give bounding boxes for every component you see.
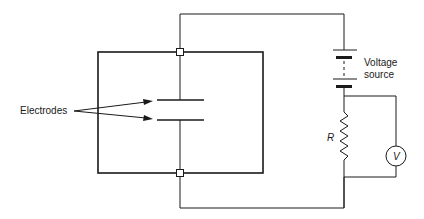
arrow-line-upper [74, 102, 146, 111]
voltmeter-top-wire [344, 96, 396, 146]
circuit-diagram: Electrodes Voltage source R V [0, 0, 424, 219]
arrow-head-lower [143, 115, 153, 121]
top-wire [180, 14, 344, 52]
electrodes-label: Electrodes [20, 105, 67, 116]
bottom-feedthrough [177, 170, 184, 177]
arrow-head-upper [143, 99, 153, 105]
resistor-label: R [327, 132, 334, 143]
voltmeter-bottom-wire [344, 166, 396, 177]
bottom-wire [180, 177, 344, 208]
voltage-source-label-line1: Voltage [364, 57, 398, 68]
top-feedthrough [177, 49, 184, 56]
arrow-line-lower [74, 111, 146, 118]
resistor [340, 112, 348, 160]
battery-short-plate-1 [336, 56, 352, 59]
battery-short-plate-2 [336, 85, 352, 88]
voltage-source-battery [333, 50, 357, 88]
electrodes-pointer-arrows [74, 99, 153, 121]
voltage-source-label-line2: source [364, 69, 394, 80]
